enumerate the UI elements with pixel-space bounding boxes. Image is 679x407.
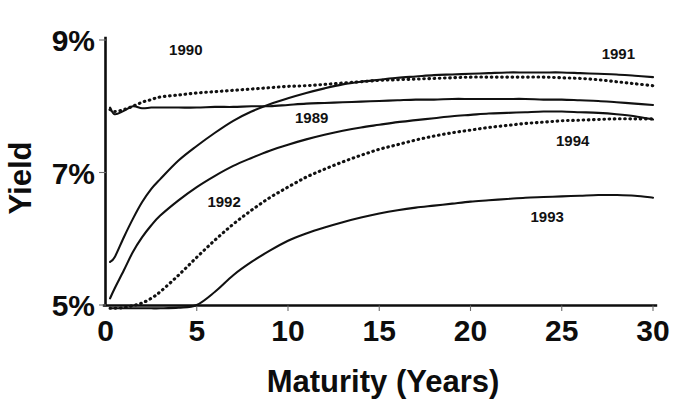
y-tick-label-5%: 5%	[52, 289, 95, 322]
series-label-1990: 1990	[169, 41, 202, 58]
series-label-1992: 1992	[207, 193, 240, 210]
chart-series-group	[110, 72, 653, 308]
series-label-1994: 1994	[556, 132, 590, 149]
x-tick-label-15: 15	[363, 314, 396, 347]
x-axis-title: Maturity (Years)	[267, 364, 500, 399]
x-tick-label-30: 30	[636, 314, 669, 347]
y-tick-label-9%: 9%	[52, 24, 95, 57]
x-tick-label-20: 20	[454, 314, 487, 347]
x-tick-label-0: 0	[97, 314, 114, 347]
x-axis-tick-labels: 051015202530	[97, 314, 670, 347]
y-axis-tick-labels: 5%7%9%	[52, 24, 95, 322]
series-label-1993: 1993	[530, 208, 563, 225]
chart-container: 198919901991199219931994 051015202530 5%…	[0, 0, 679, 407]
x-tick-label-5: 5	[188, 314, 205, 347]
y-axis-title: Yield	[3, 142, 38, 215]
yield-curve-chart: 198919901991199219931994 051015202530 5%…	[0, 0, 679, 407]
y-tick-label-7%: 7%	[52, 157, 95, 190]
series-label-1991: 1991	[602, 45, 635, 62]
x-tick-label-25: 25	[545, 314, 578, 347]
series-curve-1990	[110, 77, 653, 111]
x-tick-label-10: 10	[271, 314, 304, 347]
series-label-1989: 1989	[295, 109, 328, 126]
series-curve-1993	[110, 195, 653, 308]
